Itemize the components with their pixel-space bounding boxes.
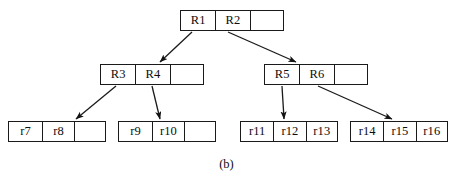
internal-node-right: R5R6 [264, 64, 368, 85]
root-node-cell-1: R1 [181, 11, 215, 30]
internal-node-right-cell-2: R6 [299, 65, 333, 84]
edge-r5-to-leaf-3 [282, 86, 284, 119]
leaf-node-1-cell-3 [74, 122, 105, 141]
leaf-node-2-cell-2: r10 [152, 122, 183, 141]
leaf-node-4-cell-3: r16 [416, 122, 447, 141]
leaf-node-3-cell-1: r11 [241, 122, 273, 141]
leaf-node-4-cell-1: r14 [351, 122, 383, 141]
figure-caption: (b) [0, 157, 453, 172]
internal-node-left: R3R4 [100, 64, 204, 85]
leaf-node-2: r9r10 [118, 121, 216, 142]
leaf-node-4-cell-2: r15 [383, 122, 415, 141]
internal-node-right-cell-1: R5 [265, 65, 299, 84]
internal-node-left-cell-3 [170, 65, 203, 84]
edge-r3-to-leaf-1 [76, 86, 116, 119]
edge-r4-to-leaf-2 [152, 86, 160, 119]
root-node-cell-2: R2 [215, 11, 249, 30]
internal-node-right-cell-3 [334, 65, 367, 84]
leaf-node-1: r7r8 [8, 121, 106, 142]
rtree-diagram: R1R2R3R4R5R6r7r8r9r10r11r12r13r14r15r16 … [0, 0, 453, 182]
leaf-node-2-cell-1: r9 [119, 122, 152, 141]
root-node-cell-3 [250, 11, 283, 30]
edge-r2-to-internal-right [228, 32, 296, 62]
leaf-node-3-cell-3: r13 [306, 122, 337, 141]
leaf-node-1-cell-1: r7 [9, 122, 42, 141]
leaf-node-2-cell-3 [184, 122, 215, 141]
leaf-node-3-cell-2: r12 [273, 122, 305, 141]
edge-r6-to-leaf-4 [318, 86, 392, 119]
leaf-node-4: r14r15r16 [350, 121, 448, 142]
internal-node-left-cell-1: R3 [101, 65, 135, 84]
leaf-node-3: r11r12r13 [240, 121, 338, 142]
root-node: R1R2 [180, 10, 284, 31]
internal-node-left-cell-2: R4 [135, 65, 169, 84]
edge-r1-to-internal-left [160, 32, 192, 62]
leaf-node-1-cell-2: r8 [42, 122, 73, 141]
